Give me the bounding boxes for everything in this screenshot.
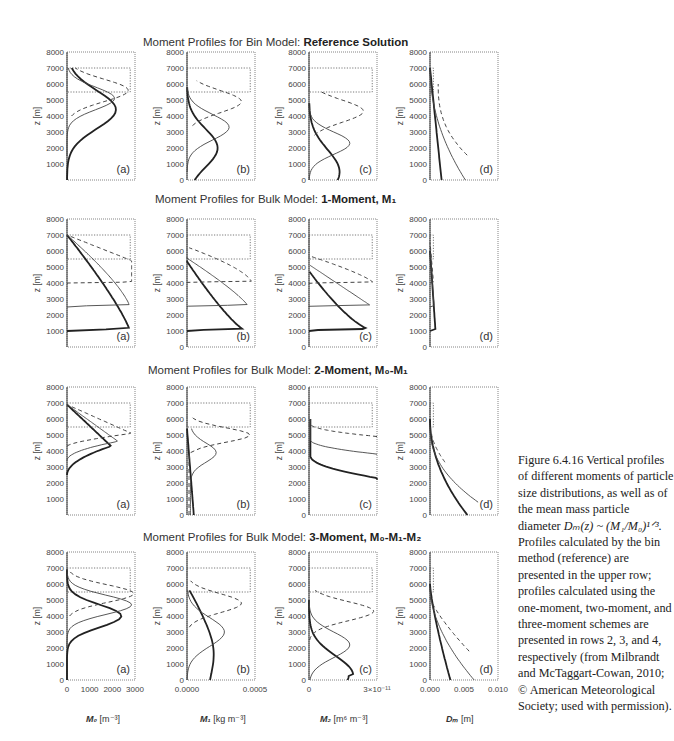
svg-text:0: 0 — [423, 676, 428, 685]
svg-text:3000: 3000 — [409, 128, 427, 137]
svg-text:0.0000: 0.0000 — [175, 685, 200, 694]
svg-text:(a): (a) — [117, 163, 130, 175]
svg-text:8000: 8000 — [166, 215, 184, 224]
svg-text:4000: 4000 — [166, 612, 184, 621]
svg-text:1000: 1000 — [288, 660, 306, 669]
svg-text:7000: 7000 — [166, 399, 184, 408]
svg-text:8000: 8000 — [46, 548, 64, 557]
svg-text:8000: 8000 — [166, 48, 184, 57]
panel-row2-a: 10002000300040005000600070008000z [m](a) — [31, 213, 143, 363]
svg-text:z [m]: z [m] — [32, 442, 42, 460]
svg-text:2000: 2000 — [166, 144, 184, 153]
svg-text:4000: 4000 — [166, 112, 184, 121]
svg-text:0: 0 — [180, 511, 185, 520]
svg-text:2000: 2000 — [103, 685, 121, 694]
svg-text:8000: 8000 — [46, 383, 64, 392]
svg-text:2000: 2000 — [46, 644, 64, 653]
svg-text:z [m]: z [m] — [152, 274, 162, 292]
svg-text:8000: 8000 — [288, 383, 306, 392]
formula: Dₘ(z) ~ (M₁/M₀)¹ᐟ³. — [564, 519, 662, 533]
x-axis-label-m1: M₁ [kg m⁻³] — [200, 714, 246, 724]
svg-text:0: 0 — [65, 685, 70, 694]
svg-text:z [m]: z [m] — [274, 274, 284, 292]
svg-text:8000: 8000 — [409, 548, 427, 557]
svg-text:7000: 7000 — [166, 64, 184, 73]
svg-text:(c): (c) — [359, 498, 372, 510]
svg-text:5000: 5000 — [409, 263, 427, 272]
svg-text:6000: 6000 — [166, 580, 184, 589]
svg-text:3000: 3000 — [46, 463, 64, 472]
svg-text:0.000: 0.000 — [420, 685, 441, 694]
figure-number: Figure 6.4.16 — [518, 453, 583, 467]
svg-text:7000: 7000 — [46, 564, 64, 573]
svg-text:3000: 3000 — [166, 295, 184, 304]
svg-text:4000: 4000 — [166, 279, 184, 288]
svg-text:0: 0 — [180, 676, 185, 685]
svg-text:4000: 4000 — [46, 447, 64, 456]
svg-text:(b): (b) — [237, 663, 250, 675]
svg-text:8000: 8000 — [409, 383, 427, 392]
svg-text:1000: 1000 — [166, 327, 184, 336]
svg-text:3000: 3000 — [46, 128, 64, 137]
svg-text:z [m]: z [m] — [395, 607, 405, 625]
svg-text:5000: 5000 — [288, 96, 306, 105]
svg-text:0.010: 0.010 — [488, 685, 509, 694]
svg-text:5000: 5000 — [166, 96, 184, 105]
svg-text:0.0005: 0.0005 — [243, 685, 268, 694]
svg-text:z [m]: z [m] — [152, 607, 162, 625]
svg-text:(c): (c) — [359, 330, 372, 342]
svg-text:(b): (b) — [237, 498, 250, 510]
svg-text:6000: 6000 — [409, 80, 427, 89]
svg-text:6000: 6000 — [409, 415, 427, 424]
svg-text:z [m]: z [m] — [152, 107, 162, 125]
svg-text:(d): (d) — [480, 498, 493, 510]
svg-text:2000: 2000 — [46, 479, 64, 488]
svg-text:0: 0 — [302, 176, 307, 185]
svg-text:1000: 1000 — [288, 160, 306, 169]
svg-text:5000: 5000 — [409, 96, 427, 105]
svg-text:(b): (b) — [237, 163, 250, 175]
svg-text:z [m]: z [m] — [395, 107, 405, 125]
svg-text:8000: 8000 — [46, 48, 64, 57]
svg-text:(d): (d) — [480, 663, 493, 675]
svg-text:3000: 3000 — [409, 463, 427, 472]
panel-row3-b: 010002000300040005000600070008000z [m](b… — [151, 381, 263, 531]
svg-text:6000: 6000 — [288, 247, 306, 256]
svg-text:1000: 1000 — [46, 660, 64, 669]
svg-text:4000: 4000 — [288, 612, 306, 621]
svg-text:z [m]: z [m] — [32, 107, 42, 125]
svg-text:8000: 8000 — [288, 48, 306, 57]
svg-text:2000: 2000 — [288, 479, 306, 488]
svg-text:3000: 3000 — [166, 628, 184, 637]
figure-caption: Figure 6.4.16 Vertical profiles of diffe… — [518, 452, 674, 715]
svg-text:1000: 1000 — [166, 160, 184, 169]
svg-text:8000: 8000 — [409, 48, 427, 57]
svg-text:6000: 6000 — [166, 415, 184, 424]
svg-text:7000: 7000 — [288, 399, 306, 408]
svg-text:3000: 3000 — [126, 685, 144, 694]
svg-text:5000: 5000 — [288, 596, 306, 605]
svg-text:3000: 3000 — [288, 628, 306, 637]
panel-row2-b: 010002000300040005000600070008000z [m](b… — [151, 213, 263, 363]
svg-text:8000: 8000 — [46, 215, 64, 224]
svg-text:0: 0 — [423, 176, 428, 185]
svg-text:2000: 2000 — [409, 644, 427, 653]
svg-text:7000: 7000 — [46, 64, 64, 73]
svg-text:0: 0 — [302, 343, 307, 352]
svg-text:4000: 4000 — [409, 612, 427, 621]
svg-text:7000: 7000 — [46, 231, 64, 240]
svg-text:8000: 8000 — [288, 548, 306, 557]
svg-text:6000: 6000 — [46, 80, 64, 89]
svg-text:6000: 6000 — [46, 247, 64, 256]
svg-text:2000: 2000 — [409, 479, 427, 488]
svg-text:7000: 7000 — [166, 564, 184, 573]
svg-text:6000: 6000 — [166, 80, 184, 89]
svg-text:2000: 2000 — [409, 144, 427, 153]
svg-text:7000: 7000 — [409, 231, 427, 240]
svg-text:8000: 8000 — [409, 215, 427, 224]
svg-text:4000: 4000 — [46, 279, 64, 288]
svg-text:5000: 5000 — [409, 596, 427, 605]
svg-text:z [m]: z [m] — [32, 607, 42, 625]
svg-text:4000: 4000 — [409, 112, 427, 121]
svg-text:4000: 4000 — [409, 279, 427, 288]
